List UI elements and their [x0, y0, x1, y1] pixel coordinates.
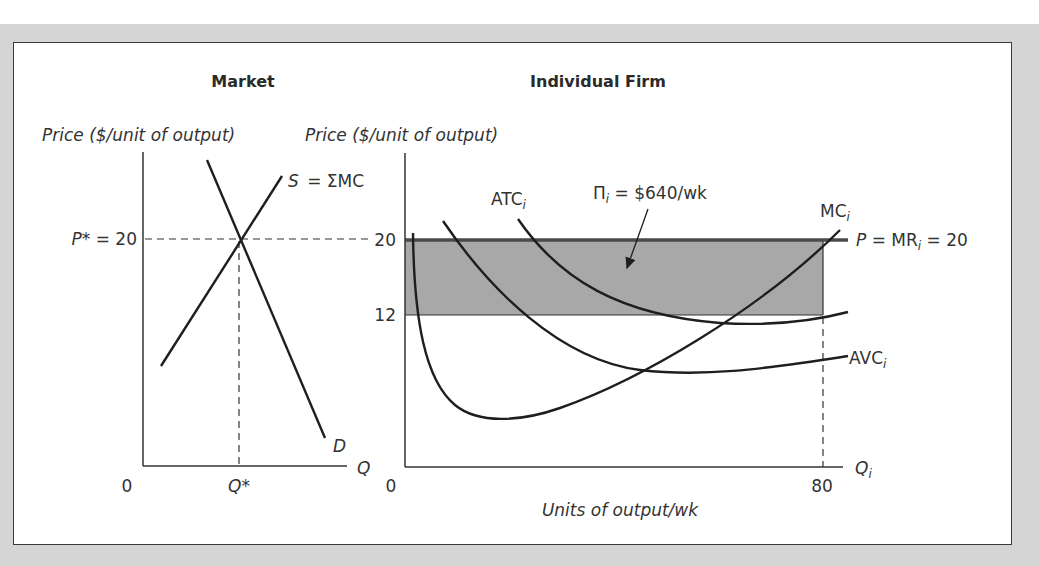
- market-y-axis-label: Price ($/unit of output): [42, 125, 235, 145]
- market-title: Market: [211, 72, 275, 91]
- supply-curve: [161, 176, 282, 366]
- firm-x-axis-title: Units of output/wk: [542, 500, 699, 520]
- supply-label: S = ΣMC: [288, 171, 364, 191]
- firm-origin-label: 0: [386, 476, 397, 496]
- market-origin-label: 0: [122, 476, 133, 496]
- economics-diagram: Market Price ($/unit of output) S = ΣMC …: [0, 0, 1039, 566]
- mc-label: MCi: [820, 201, 851, 224]
- firm-y-axis-label: Price ($/unit of output): [305, 125, 498, 145]
- profit-label: Πi = $640/wk: [593, 183, 707, 206]
- atc-label: ATCi: [491, 189, 527, 212]
- price-mr-label: P = MRi = 20: [856, 230, 968, 253]
- tick-12: 12: [374, 305, 396, 325]
- firm-x-axis-label: Qi: [855, 458, 872, 481]
- tick-20: 20: [374, 230, 396, 250]
- q-star-label: Q*: [228, 476, 250, 496]
- profit-region: [405, 240, 823, 315]
- p-star-label: P* = 20: [72, 229, 137, 249]
- firm-title: Individual Firm: [530, 72, 666, 91]
- demand-label: D: [333, 436, 346, 456]
- avc-label: AVCi: [849, 348, 887, 371]
- market-x-axis-label: Q: [357, 458, 370, 478]
- tick-80: 80: [811, 476, 833, 496]
